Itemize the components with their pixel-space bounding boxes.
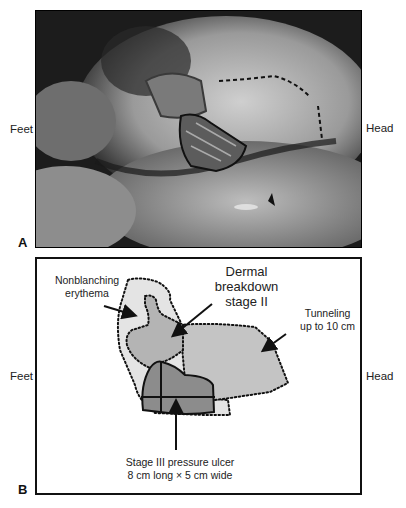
pressure-ulcer-photo [35,10,362,248]
tunneling-annotation: Tunneling up to 10 cm [290,307,365,333]
wound-schematic-diagram: Nonblanching erythema Dermal breakdown s… [35,257,362,495]
panel-b-letter: B [18,482,27,497]
dermal-breakdown-annotation: Dermal breakdown stage II [209,264,284,309]
panel-a-letter: A [18,235,27,250]
panel-b-head-label: Head [366,370,394,382]
panel-a-head-label: Head [366,122,394,134]
erythema-annotation: Nonblanching erythema [52,274,122,300]
panel-b-feet-label: Feet [10,370,33,382]
stage-iii-ulcer-annotation: Stage III pressure ulcer 8 cm long × 5 c… [115,456,245,482]
panel-a-feet-label: Feet [10,123,33,135]
photo-illustration [36,11,362,248]
